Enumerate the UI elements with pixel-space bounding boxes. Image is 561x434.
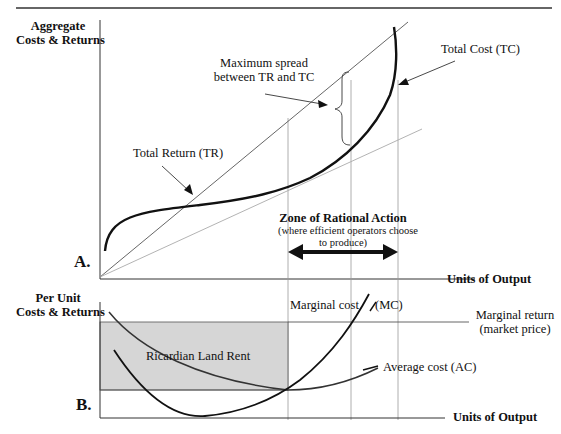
max-spread-brace <box>335 72 350 145</box>
panel-a-y-axis-title: Aggregate Costs & Returns <box>16 19 100 47</box>
marginal-return-line2: (market price) <box>470 322 560 336</box>
panel-b-tag: B. <box>76 398 92 412</box>
marginal-return-label: Marginal return (market price) <box>470 308 560 336</box>
zone-title: Zone of Rational Action <box>278 211 408 225</box>
marginal-return-line1: Marginal return <box>470 308 560 322</box>
zone-label: Zone of Rational Action (where efficient… <box>278 211 408 249</box>
land-rent-label: Ricardian Land Rent <box>146 349 250 363</box>
average-cost-label: Average cost (AC) <box>383 360 476 374</box>
y-axis-title-line1: Per Unit <box>16 291 100 305</box>
arrow-total-cost <box>398 61 455 85</box>
arrow-total-return <box>162 166 193 195</box>
total-cost-label: Total Cost (TC) <box>441 42 520 56</box>
y-axis-title-line1: Aggregate <box>16 19 100 33</box>
y-axis-title-line2: Costs & Returns <box>16 33 100 47</box>
zone-subtitle-line1: (where efficient operators choose <box>278 225 408 237</box>
mc-abbrev-label: (MC) <box>375 298 403 312</box>
marginal-cost-label: Marginal cost <box>290 298 359 312</box>
panel-a-x-axis-title: Units of Output <box>447 272 531 286</box>
panel-b-x-axis-title: Units of Output <box>453 410 537 424</box>
total-return-label: Total Return (TR) <box>133 146 223 160</box>
max-spread-line1: Maximum spread <box>204 56 324 70</box>
panel-a-tag: A. <box>74 255 91 269</box>
max-spread-line2: between TR and TC <box>204 70 324 84</box>
max-spread-label: Maximum spread between TR and TC <box>204 56 324 84</box>
zone-subtitle-line2: to produce) <box>278 237 408 249</box>
panel-b-y-axis-title: Per Unit Costs & Returns <box>16 291 100 319</box>
y-axis-title-line2: Costs & Returns <box>16 305 100 319</box>
